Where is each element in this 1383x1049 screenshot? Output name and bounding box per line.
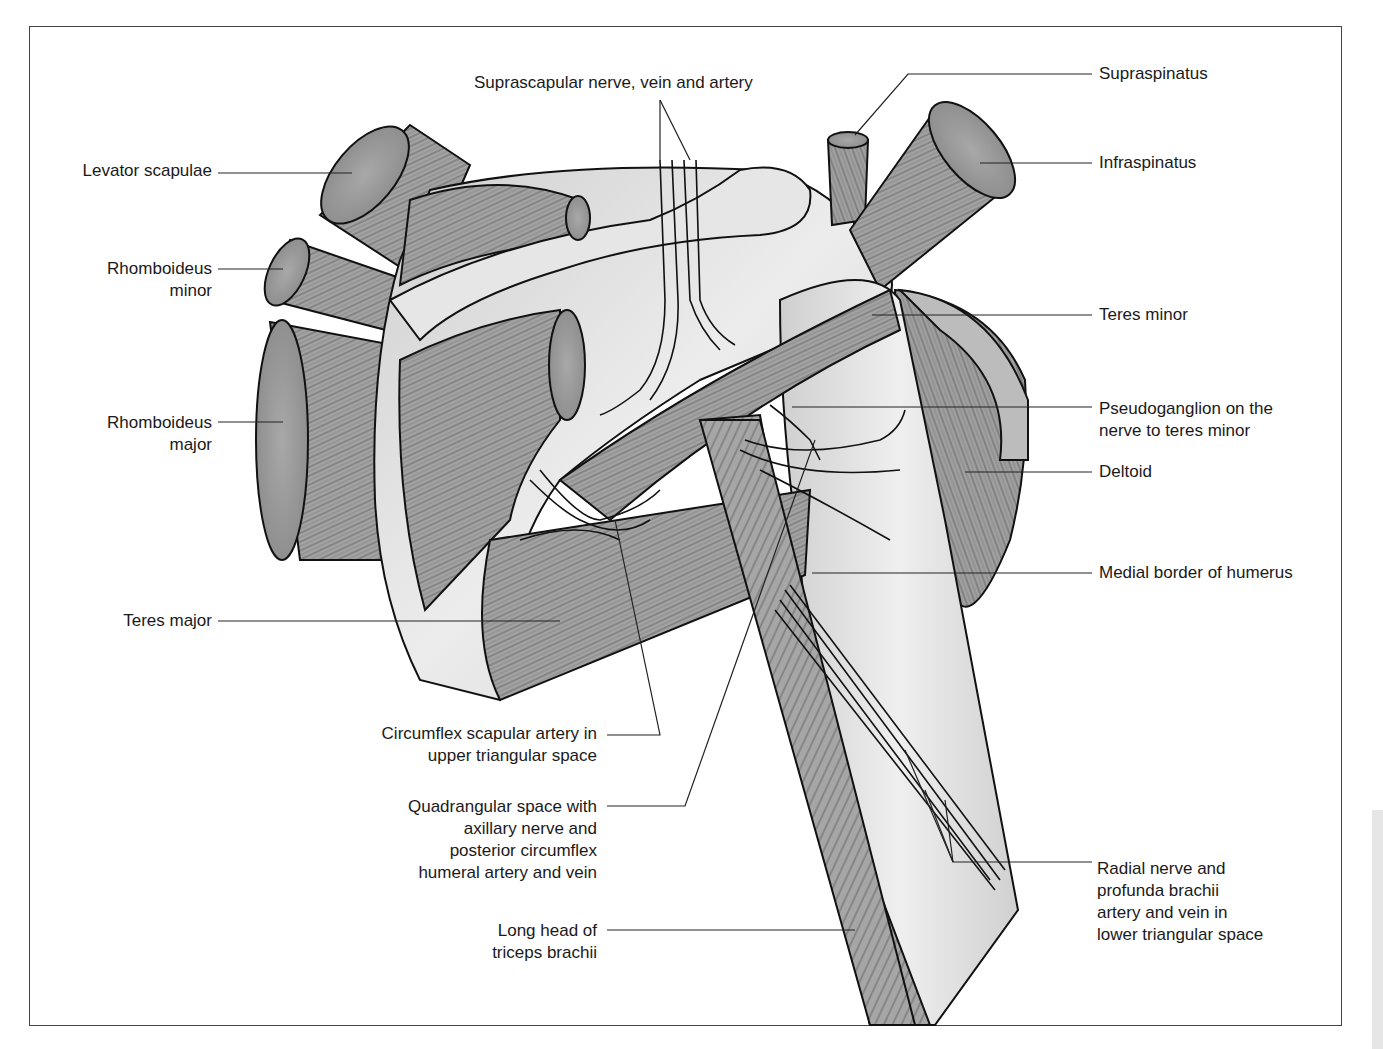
label-teres-minor: Teres minor bbox=[1099, 304, 1339, 326]
label-radial-nerve: Radial nerve and profunda brachii artery… bbox=[1097, 858, 1337, 946]
label-circumflex-scapular-artery: Circumflex scapular artery in upper tria… bbox=[300, 723, 597, 767]
label-suprascapular-nerve-vein-artery: Suprascapular nerve, vein and artery bbox=[474, 72, 814, 94]
label-pseudoganglion: Pseudoganglion on the nerve to teres min… bbox=[1099, 398, 1339, 442]
label-infraspinatus: Infraspinatus bbox=[1099, 152, 1339, 174]
label-rhomboideus-major: Rhomboideus major bbox=[30, 412, 212, 456]
supraspinatus-muscle bbox=[828, 132, 868, 225]
label-medial-border-humerus: Medial border of humerus bbox=[1099, 562, 1339, 584]
label-quadrangular-space: Quadrangular space with axillary nerve a… bbox=[300, 796, 597, 884]
label-supraspinatus: Supraspinatus bbox=[1099, 63, 1339, 85]
label-levator-scapulae: Levator scapulae bbox=[30, 160, 212, 182]
label-teres-major: Teres major bbox=[30, 610, 212, 632]
label-rhomboideus-minor: Rhomboideus minor bbox=[30, 258, 212, 302]
infraspinatus-muscle bbox=[850, 88, 1031, 290]
label-long-head-triceps: Long head of triceps brachii bbox=[300, 920, 597, 964]
label-deltoid: Deltoid bbox=[1099, 461, 1339, 483]
